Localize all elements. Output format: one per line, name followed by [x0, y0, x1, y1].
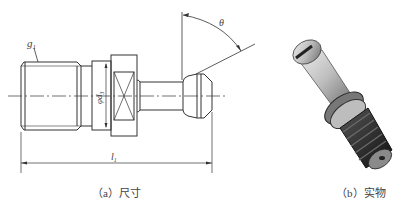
dimension-drawing: g1 φd3 l1 θ — [0, 0, 411, 211]
angle-label: θ — [219, 17, 224, 28]
length-label: l1 — [111, 151, 117, 163]
pull-stud-photo — [289, 35, 396, 173]
diameter-label: φd3 — [94, 92, 105, 104]
caption-dimensions: （a）尺寸 — [92, 184, 141, 200]
thread-label: g1 — [27, 37, 36, 51]
caption-photo: （b）实物 — [336, 184, 386, 200]
